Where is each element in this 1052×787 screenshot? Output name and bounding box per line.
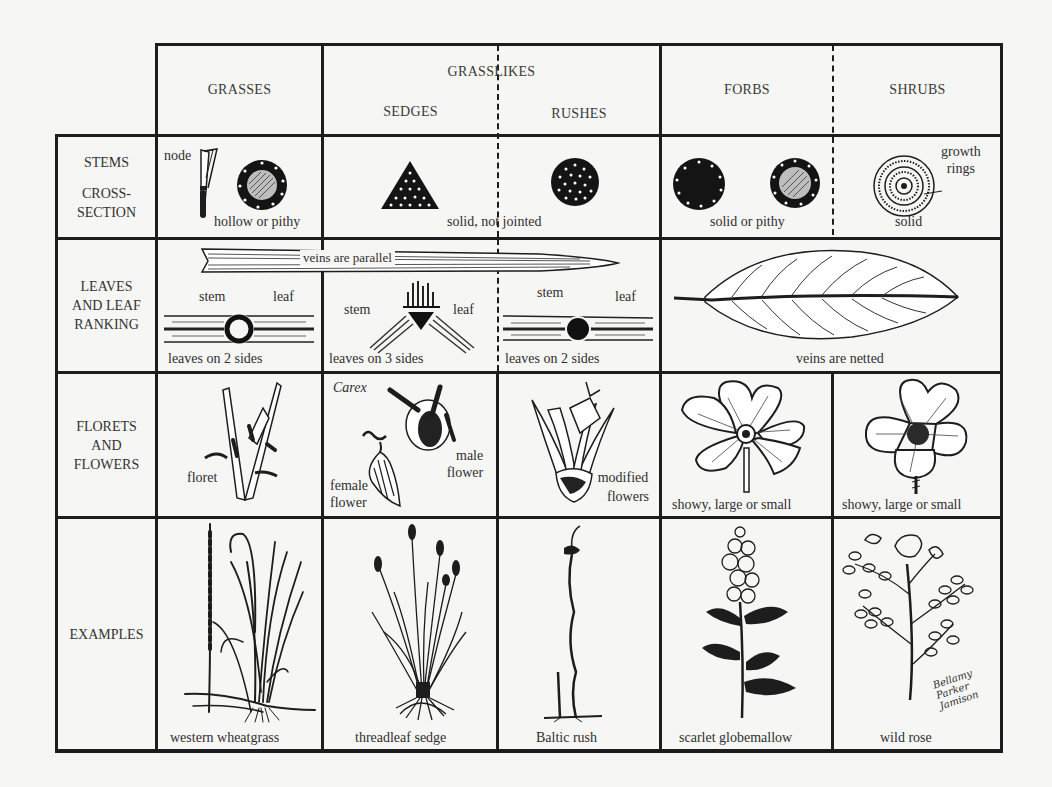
row-label-leaves: LEAVES AND LEAF RANKING bbox=[58, 240, 155, 371]
triangular-stem-cross-section-icon bbox=[379, 159, 441, 211]
parallel-veins-label: veins are parallel bbox=[300, 250, 395, 266]
female-flower-label-line: flower bbox=[330, 495, 367, 510]
example-caption-shrubs: wild rose bbox=[880, 730, 932, 746]
flower-caption-forbs: showy, large or small bbox=[672, 497, 791, 513]
header-label: SEDGES bbox=[383, 104, 438, 120]
row-label-text: CROSS- bbox=[82, 184, 131, 203]
flower-caption-grasses: floret bbox=[187, 470, 217, 486]
node-label: node bbox=[164, 148, 191, 164]
grid-dashed-line bbox=[832, 45, 834, 235]
row-label-text: FLORETS bbox=[76, 417, 137, 436]
scarlet-globemallow-illustration bbox=[700, 522, 800, 722]
solid-forb-stem-cross-section-icon bbox=[672, 157, 726, 211]
row-label-text: AND bbox=[91, 436, 121, 455]
two-ranked-leaves-solid-stem-icon bbox=[503, 310, 653, 348]
row-label-text: LEAVES bbox=[81, 277, 133, 296]
growth-rings-label-line: growth bbox=[941, 144, 981, 159]
parallel-veined-leaf-icon bbox=[200, 246, 620, 276]
solid-rush-stem-cross-section-icon bbox=[550, 157, 600, 207]
header-shrubs: SHRUBS bbox=[835, 46, 1000, 134]
growth-rings-label-line: rings bbox=[947, 161, 975, 176]
leaf-ranking-caption-grasses: leaves on 2 sides bbox=[168, 351, 262, 367]
stem-caption-grasses: hollow or pithy bbox=[214, 214, 300, 230]
row-label-examples: EXAMPLES bbox=[58, 519, 155, 749]
example-caption-rushes: Baltic rush bbox=[536, 730, 597, 746]
grid-line bbox=[1000, 43, 1003, 753]
growth-rings-label: growth rings bbox=[941, 143, 981, 177]
two-ranked-leaves-hollow-stem-icon bbox=[164, 310, 314, 348]
grid-line bbox=[55, 749, 1003, 753]
row-label-flowers: FLORETS AND FLOWERS bbox=[58, 374, 155, 516]
grid-line bbox=[831, 371, 834, 753]
header-label: GRASSES bbox=[208, 82, 272, 98]
grass-floret-icon bbox=[205, 378, 285, 508]
stem-label: stem bbox=[199, 289, 225, 305]
hollow-stem-cross-section-icon bbox=[236, 159, 288, 211]
grid-line bbox=[55, 371, 1003, 374]
stem-label: stem bbox=[537, 285, 563, 301]
grid-line bbox=[155, 43, 158, 753]
row-label-text: RANKING bbox=[74, 315, 139, 334]
row-label-text: SECTION bbox=[77, 203, 136, 222]
header-grasses: GRASSES bbox=[158, 46, 321, 134]
grid-line bbox=[496, 371, 499, 753]
western-wheatgrass-illustration bbox=[183, 522, 318, 722]
leaf-label: leaf bbox=[273, 289, 294, 305]
modified-flowers-label-line: modified bbox=[598, 470, 649, 485]
leaf-label: leaf bbox=[453, 302, 474, 318]
header-label: SHRUBS bbox=[889, 82, 945, 98]
leaf-ranking-caption-netted: veins are netted bbox=[796, 351, 884, 367]
stem-label: stem bbox=[344, 302, 370, 318]
header-label: RUSHES bbox=[551, 106, 606, 122]
header-forbs: FORBS bbox=[662, 46, 832, 134]
leaf-ranking-caption-sedges: leaves on 3 sides bbox=[329, 351, 423, 367]
flower-caption-shrubs: showy, large or small bbox=[842, 497, 961, 513]
carex-genus-label: Carex bbox=[333, 380, 367, 396]
header-label: GRASSLIKES bbox=[448, 64, 536, 80]
wild-rose-flower-icon bbox=[860, 378, 970, 496]
header-grasslikes: GRASSLIKES bbox=[324, 60, 659, 84]
grid-line bbox=[55, 134, 1003, 137]
leaf-label: leaf bbox=[615, 289, 636, 305]
row-label-text: STEMS bbox=[84, 153, 129, 172]
modified-flowers-label: modified flowers bbox=[597, 468, 649, 506]
female-flower-label: female flower bbox=[330, 477, 368, 511]
leaf-ranking-caption-rushes: leaves on 2 sides bbox=[505, 351, 599, 367]
male-flower-label-line: male bbox=[456, 448, 483, 463]
stem-caption-shrubs: solid bbox=[895, 214, 922, 230]
header-sedges: SEDGES bbox=[324, 100, 497, 124]
threadleaf-sedge-illustration bbox=[370, 522, 475, 722]
female-flower-label-line: female bbox=[330, 478, 368, 493]
row-label-text: AND LEAF bbox=[72, 296, 141, 315]
example-caption-grasses: western wheatgrass bbox=[170, 730, 279, 746]
net-veined-leaf-icon bbox=[672, 247, 962, 347]
example-caption-forbs: scarlet globemallow bbox=[679, 730, 792, 746]
baltic-rush-illustration bbox=[540, 522, 605, 722]
growth-rings-cross-section-icon bbox=[872, 154, 936, 218]
example-caption-sedges: threadleaf sedge bbox=[355, 730, 446, 746]
grass-stem-node-icon bbox=[195, 148, 225, 223]
row-label-stems: STEMS CROSS- SECTION bbox=[58, 137, 155, 237]
modified-flowers-label-line: flowers bbox=[607, 489, 649, 504]
grid-line bbox=[659, 43, 662, 753]
row-label-text: EXAMPLES bbox=[70, 625, 144, 644]
stem-caption-grasslikes: solid, not jointed bbox=[447, 214, 542, 230]
grid-line bbox=[321, 43, 324, 753]
grid-line bbox=[55, 237, 1003, 240]
male-flower-label: male flower bbox=[446, 447, 483, 481]
male-flower-label-line: flower bbox=[447, 465, 484, 480]
pithy-forb-stem-cross-section-icon bbox=[769, 157, 821, 209]
stem-caption-forbs: solid or pithy bbox=[710, 214, 785, 230]
globemallow-flower-icon bbox=[678, 378, 808, 496]
header-label: FORBS bbox=[724, 82, 770, 98]
row-label-text: FLOWERS bbox=[74, 455, 139, 474]
grid-line bbox=[55, 516, 1003, 519]
header-rushes: RUSHES bbox=[499, 102, 659, 126]
